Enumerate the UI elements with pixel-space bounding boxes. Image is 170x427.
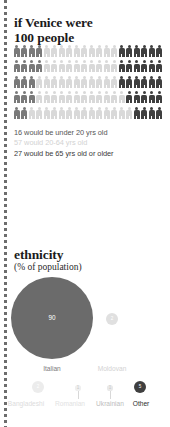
ethnicity-title: ethnicity [14, 248, 166, 263]
person-icon [21, 91, 29, 107]
ethnicity-bubble-other[interactable]: 5 [134, 381, 146, 393]
person-icon [103, 106, 111, 122]
age-legend-line-2: 27 would be 65 yrs old or older [14, 149, 164, 159]
ethnicity-bubble-ukrainian[interactable]: 1 [107, 385, 112, 390]
age-legend: 16 would be under 20 yrs old57 would 20-… [14, 128, 164, 159]
person-icon [28, 75, 36, 91]
person-icon [96, 60, 104, 76]
ethnicity-bubble-label-bangladeshi: Bangladeshi [8, 400, 44, 408]
person-icon [96, 91, 104, 107]
person-icon [103, 75, 111, 91]
person-icon [88, 60, 96, 76]
person-icon [126, 106, 134, 122]
ethnicity-bubble-label-romanian: Romanian [55, 400, 85, 408]
person-icon [28, 106, 36, 122]
person-icon [96, 44, 104, 60]
ethnicity-bubble-value: 1 [109, 386, 112, 391]
person-icon [66, 60, 74, 76]
person-icon [73, 44, 81, 60]
person-icon [13, 44, 21, 60]
person-icon [81, 44, 89, 60]
person-icon [133, 75, 141, 91]
person-icon [133, 60, 141, 76]
ethnicity-bubble-label-moldovan: Moldovan [98, 365, 127, 373]
person-icon [66, 44, 74, 60]
person-icon [36, 60, 44, 76]
person-icon [133, 44, 141, 60]
person-icon [36, 106, 44, 122]
person-icon [28, 91, 36, 107]
person-icon [148, 91, 156, 107]
person-icon [66, 91, 74, 107]
person-icon [156, 44, 164, 60]
person-icon [111, 106, 119, 122]
person-icon [103, 91, 111, 107]
person-icon [141, 75, 149, 91]
person-icon [58, 60, 66, 76]
person-icon [13, 75, 21, 91]
person-icon [81, 106, 89, 122]
person-icon [13, 106, 21, 122]
person-icon [21, 44, 29, 60]
bubble-connector-tick [78, 390, 79, 399]
ethnicity-bubble-italian[interactable]: 90 [11, 277, 93, 359]
person-icon [66, 106, 74, 122]
ethnicity-bubble-label-ukrainian: Ukrainian [96, 400, 124, 408]
person-icon [58, 91, 66, 107]
ethnicity-bubble-value: 90 [48, 315, 55, 321]
ethnicity-bubble-label-italian: Italian [43, 365, 61, 373]
person-icon [81, 60, 89, 76]
person-icon [36, 75, 44, 91]
person-icon [96, 106, 104, 122]
ethnicity-bubble-label-other: Other [133, 400, 150, 408]
person-icon [73, 75, 81, 91]
ethnicity-bubble-bangladeshi[interactable]: 2 [32, 381, 44, 393]
person-icon [73, 106, 81, 122]
person-icon [51, 44, 59, 60]
person-icon [148, 106, 156, 122]
ethnicity-bubble-chart: 90Italian2Moldovan2Bangladeshi1Romanian1… [0, 274, 170, 404]
person-icon [43, 106, 51, 122]
person-icon [126, 44, 134, 60]
person-icon [156, 91, 164, 107]
person-icon [43, 75, 51, 91]
bubble-connector-tick [110, 390, 111, 399]
person-icon [141, 91, 149, 107]
person-icon [36, 91, 44, 107]
person-icon [148, 75, 156, 91]
person-icon [21, 106, 29, 122]
ethnicity-bubble-romanian[interactable]: 1 [75, 385, 80, 390]
person-icon [13, 60, 21, 76]
person-icon [88, 44, 96, 60]
person-icon [148, 60, 156, 76]
person-icon [43, 44, 51, 60]
person-icon [73, 60, 81, 76]
ethnicity-bubble-moldovan[interactable]: 2 [106, 313, 118, 325]
person-icon [13, 91, 21, 107]
person-icon [36, 44, 44, 60]
person-icon [88, 75, 96, 91]
person-icon [118, 44, 126, 60]
person-icon [28, 44, 36, 60]
person-icon [156, 106, 164, 122]
person-icon [148, 44, 156, 60]
ethnicity-bubble-value: 5 [139, 385, 142, 390]
person-icon [133, 106, 141, 122]
person-icon [73, 91, 81, 107]
person-icon [51, 60, 59, 76]
person-icon [51, 106, 59, 122]
age-legend-line-1: 57 would 20-64 yrs old [14, 138, 164, 148]
ethnicity-bubble-value: 1 [77, 386, 80, 391]
person-icon [126, 75, 134, 91]
person-icon [118, 60, 126, 76]
person-icon [81, 75, 89, 91]
population-pictogram [13, 44, 163, 122]
person-icon [43, 60, 51, 76]
person-icon [96, 75, 104, 91]
person-icon [156, 75, 164, 91]
ethnicity-subtitle: (% of population) [14, 262, 166, 273]
person-icon [126, 91, 134, 107]
person-icon [66, 75, 74, 91]
person-icon [111, 91, 119, 107]
person-icon [81, 91, 89, 107]
